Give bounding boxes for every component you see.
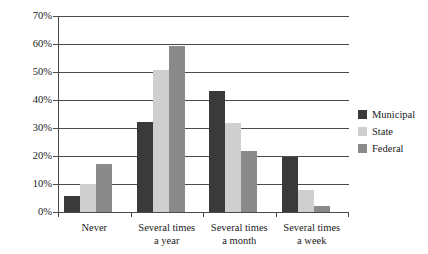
bar <box>241 151 257 212</box>
y-tick-mark <box>53 16 58 17</box>
legend-item-federal: Federal <box>358 140 428 157</box>
legend-label: State <box>372 126 393 137</box>
bar <box>137 122 153 212</box>
y-tick-label: 60% <box>6 39 52 50</box>
legend-item-municipal: Municipal <box>358 106 428 123</box>
legend-swatch-icon <box>358 127 367 136</box>
y-tick-mark <box>53 72 58 73</box>
bar <box>64 196 80 212</box>
y-tick-label: 0% <box>6 207 52 218</box>
legend-swatch-icon <box>358 144 367 153</box>
legend-swatch-icon <box>358 110 367 119</box>
chart-legend: MunicipalStateFederal <box>358 106 428 157</box>
y-tick-mark <box>53 128 58 129</box>
x-category-label-line2: a week <box>267 234 357 247</box>
y-tick-label: 50% <box>6 67 52 78</box>
bar <box>96 164 112 212</box>
y-tick-mark <box>53 184 58 185</box>
y-tick-mark <box>53 100 58 101</box>
bar <box>153 70 169 212</box>
x-category-label-line1: Several times <box>283 222 340 233</box>
bar <box>80 184 96 212</box>
x-category-label: Several timesa week <box>267 221 357 247</box>
x-tick-mark <box>131 212 132 217</box>
x-tick-mark <box>58 212 59 217</box>
bar-chart: 0%10%20%30%40%50%60%70% NeverSeveral tim… <box>0 0 428 254</box>
y-tick-mark <box>53 156 58 157</box>
bars-layer <box>58 16 348 212</box>
legend-item-state: State <box>358 123 428 140</box>
x-category-label-line1: Several times <box>138 222 195 233</box>
x-tick-mark <box>203 212 204 217</box>
y-axis: 0%10%20%30%40%50%60%70% <box>0 0 52 254</box>
legend-label: Municipal <box>372 109 415 120</box>
bar <box>209 91 225 212</box>
legend-label: Federal <box>372 143 404 154</box>
y-tick-label: 70% <box>6 11 52 22</box>
y-tick-label: 40% <box>6 95 52 106</box>
x-tick-mark <box>276 212 277 217</box>
bar <box>169 46 185 212</box>
x-tick-mark <box>348 212 349 217</box>
bar <box>225 123 241 212</box>
x-category-label-line1: Several times <box>211 222 268 233</box>
x-category-label-line1: Never <box>81 222 107 233</box>
y-tick-mark <box>53 44 58 45</box>
bar <box>282 157 298 212</box>
y-tick-label: 30% <box>6 123 52 134</box>
bar <box>298 190 314 212</box>
y-tick-label: 20% <box>6 151 52 162</box>
y-tick-label: 10% <box>6 179 52 190</box>
